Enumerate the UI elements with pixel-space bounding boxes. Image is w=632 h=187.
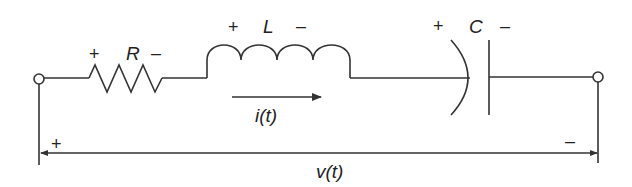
rlc-circuit-diagram: + R – + L – + C – i(t) + – v(t) xyxy=(0,0,632,187)
inductor-label: L xyxy=(263,16,274,37)
inductor-plus-sign: + xyxy=(228,17,239,37)
inductor-minus-sign: – xyxy=(296,16,306,36)
voltage-plus-sign: + xyxy=(51,134,62,154)
left-terminal xyxy=(34,74,44,84)
voltage-label: v(t) xyxy=(316,161,343,182)
resistor-label: R xyxy=(126,43,140,64)
current-label: i(t) xyxy=(255,105,277,126)
resistor-symbol xyxy=(89,65,162,92)
capacitor-minus-sign: – xyxy=(500,16,510,36)
capacitor-label: C xyxy=(469,16,483,37)
resistor-minus-sign: – xyxy=(151,43,161,63)
voltage-minus-sign: – xyxy=(565,131,575,151)
resistor-plus-sign: + xyxy=(89,44,100,64)
inductor-symbol xyxy=(207,45,350,78)
right-terminal xyxy=(593,72,603,82)
capacitor-plus-sign: + xyxy=(433,16,444,36)
